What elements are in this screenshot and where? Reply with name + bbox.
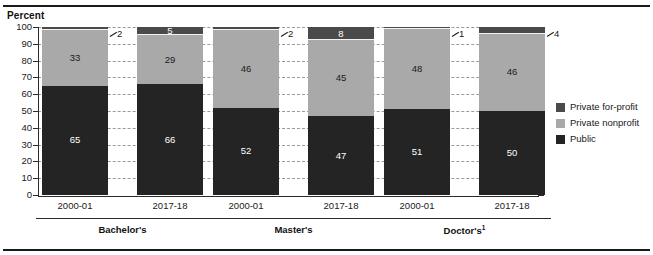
y-axis-tick-label: 30 xyxy=(6,140,32,150)
segment-separator xyxy=(479,33,545,34)
bar-segment[interactable]: 45 xyxy=(308,40,374,116)
group-rule xyxy=(207,218,380,219)
group-label-text: Bachelor's xyxy=(98,224,146,235)
bar-value-label: 8 xyxy=(308,29,374,39)
bar-value-label: 52 xyxy=(213,147,279,157)
bar-value-label: 33 xyxy=(42,53,108,63)
legend-swatch-public xyxy=(556,135,565,144)
segment-separator xyxy=(213,29,279,30)
y-axis-tick-label: 90 xyxy=(6,39,32,49)
x-axis-tick-label: 2000-01 xyxy=(30,200,120,211)
stacked-bar[interactable]: 5148 xyxy=(384,27,450,195)
bar-segment[interactable]: 65 xyxy=(42,86,108,195)
bar-segment[interactable]: 51 xyxy=(384,109,450,195)
y-axis-tick-label: 60 xyxy=(6,89,32,99)
stacked-bar[interactable]: 5046 xyxy=(479,27,545,195)
bar-segment[interactable]: 29 xyxy=(137,35,203,84)
bar-value-label: 47 xyxy=(308,151,374,161)
bar-segment[interactable]: 48 xyxy=(384,29,450,110)
x-axis-tick-label: 2000-01 xyxy=(201,200,291,211)
legend-item[interactable]: Private nonprofit xyxy=(556,116,639,130)
plot-area: 65336629552464745851485046 xyxy=(38,27,538,195)
x-axis-tick-label: 2017-18 xyxy=(467,200,557,211)
stacked-bar[interactable]: 6533 xyxy=(42,27,108,195)
bar-value-callout: 1 xyxy=(452,29,464,39)
y-axis-tick-label: 10 xyxy=(6,173,32,183)
legend-swatch-private-for-profit xyxy=(556,103,565,112)
y-axis-tick-label: 100 xyxy=(6,22,32,32)
bar-segment[interactable]: 52 xyxy=(213,108,279,195)
callout-leader-line xyxy=(110,31,117,38)
x-axis-tick-label: 2000-01 xyxy=(372,200,462,211)
group-label-text: Doctor's xyxy=(444,225,482,236)
bar-value-callout: 4 xyxy=(547,29,559,39)
bar-group: 65336629552464745851485046 xyxy=(38,27,538,195)
bar-value-callout: 2 xyxy=(110,29,122,39)
stacked-bar[interactable]: 5246 xyxy=(213,27,279,195)
callout-leader-line xyxy=(281,31,288,38)
figure-bottom-rule xyxy=(3,249,650,251)
callout-leader-line xyxy=(547,31,554,38)
legend-item[interactable]: Public xyxy=(556,132,639,146)
bar-value-label: 66 xyxy=(137,135,203,145)
segment-separator xyxy=(42,29,108,30)
group-rule xyxy=(36,218,209,219)
callout-leader-line xyxy=(452,31,459,38)
bar-segment[interactable]: 66 xyxy=(137,84,203,195)
figure-top-rule xyxy=(3,5,650,7)
legend-label: Private for-profit xyxy=(570,102,638,112)
stacked-bar-chart-figure: Percent 1009080706050403020100 653366295… xyxy=(0,0,653,255)
right-axis-tick xyxy=(539,195,544,196)
bar-segment[interactable]: 46 xyxy=(213,30,279,107)
y-axis-tick-label: 80 xyxy=(6,56,32,66)
stacked-bar[interactable]: 47458 xyxy=(308,27,374,195)
legend-swatch-private-nonprofit xyxy=(556,119,565,128)
segment-separator xyxy=(308,39,374,40)
bar-value-label: 48 xyxy=(384,64,450,74)
legend: Private for-profit Private nonprofit Pub… xyxy=(556,100,639,148)
segment-separator xyxy=(384,28,450,29)
callout-label: 1 xyxy=(459,28,464,39)
segment-separator xyxy=(137,34,203,35)
y-axis-tick-label: 70 xyxy=(6,72,32,82)
stacked-bar[interactable]: 66295 xyxy=(137,27,203,195)
callout-label: 2 xyxy=(288,28,293,39)
group-label: Doctor's1 xyxy=(378,224,551,236)
bar-segment[interactable]: 47 xyxy=(308,116,374,195)
bar-value-label: 65 xyxy=(42,136,108,146)
group-label-footnote: 1 xyxy=(482,224,486,231)
group-label: Master's xyxy=(207,224,380,235)
legend-item[interactable]: Private for-profit xyxy=(556,100,639,114)
group-label-text: Master's xyxy=(274,224,312,235)
group-label: Bachelor's xyxy=(36,224,209,235)
bar-value-label: 50 xyxy=(479,148,545,158)
y-axis-title: Percent xyxy=(7,10,44,21)
bar-segment[interactable]: 33 xyxy=(42,30,108,85)
y-axis-tick-label: 40 xyxy=(6,123,32,133)
bar-value-label: 51 xyxy=(384,147,450,157)
bar-value-label: 46 xyxy=(213,64,279,74)
group-rule xyxy=(378,218,551,219)
y-axis-tick-label: 0 xyxy=(6,190,32,200)
y-axis-tick-label: 20 xyxy=(6,156,32,166)
legend-label: Public xyxy=(570,134,596,144)
callout-label: 2 xyxy=(117,28,122,39)
legend-label: Private nonprofit xyxy=(570,118,639,128)
bar-value-label: 45 xyxy=(308,74,374,84)
bar-value-callout: 2 xyxy=(281,29,293,39)
bar-segment[interactable]: 8 xyxy=(308,27,374,40)
bar-value-label: 46 xyxy=(479,68,545,78)
bar-segment[interactable]: 46 xyxy=(479,34,545,111)
x-axis-baseline xyxy=(38,196,539,197)
callout-label: 4 xyxy=(554,28,559,39)
bar-value-label: 29 xyxy=(137,55,203,65)
y-axis-tick-label: 50 xyxy=(6,106,32,116)
bar-segment[interactable]: 50 xyxy=(479,111,545,195)
